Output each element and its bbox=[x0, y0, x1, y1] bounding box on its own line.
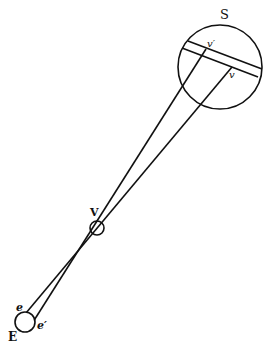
label-v-prime: v′ bbox=[207, 38, 216, 49]
sun-disk bbox=[178, 25, 262, 109]
label-earth: E bbox=[8, 330, 17, 344]
earth-disk bbox=[15, 312, 35, 332]
label-e-prime: e′ bbox=[37, 319, 47, 332]
label-e: e bbox=[16, 301, 23, 314]
transit-parallax-diagram: S v′ v V e e′ E bbox=[0, 0, 279, 348]
label-venus: V bbox=[89, 206, 99, 219]
label-v: v bbox=[229, 69, 235, 80]
sightline-v-to-e bbox=[26, 67, 232, 313]
sightline-v-prime-to-e-prime bbox=[33, 49, 206, 322]
label-sun: S bbox=[220, 7, 229, 22]
